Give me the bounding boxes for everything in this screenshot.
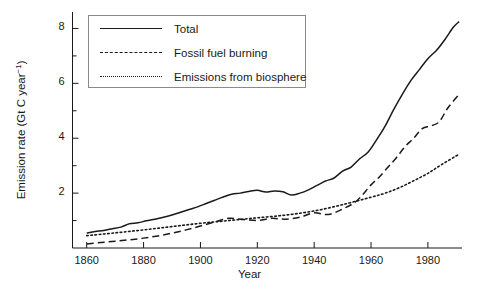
x-axis-tick-label: 1940 xyxy=(289,254,339,266)
x-axis-label: Year xyxy=(0,268,499,280)
y-axis-tick-label: 4 xyxy=(39,130,65,142)
legend-line-dashed-icon xyxy=(100,47,162,59)
y-axis-label-superscript: −1 xyxy=(13,64,22,73)
legend-label-fossil-fuel-burning: Fossil fuel burning xyxy=(174,47,267,59)
y-axis-label: Emission rate (Gt C year−1) xyxy=(0,0,40,260)
chart-legend: Total Fossil fuel burning Emissions from… xyxy=(88,15,306,88)
legend-label-emissions-from-biosphere: Emissions from biosphere xyxy=(174,71,306,83)
x-axis-tick-label: 1880 xyxy=(119,254,169,266)
legend-item-emissions-from-biosphere: Emissions from biosphere xyxy=(89,65,305,89)
legend-line-solid-icon xyxy=(100,23,162,35)
legend-line-dotted-icon xyxy=(100,71,162,83)
legend-item-fossil-fuel-burning: Fossil fuel burning xyxy=(89,41,305,65)
y-axis-tick-label: 2 xyxy=(39,185,65,197)
y-axis-tick-label: 8 xyxy=(39,20,65,32)
legend-label-total: Total xyxy=(174,23,198,35)
y-axis-tick-label: 6 xyxy=(39,75,65,87)
x-axis-tick-label: 1860 xyxy=(62,254,112,266)
series-line-emissions-from-biosphere xyxy=(87,154,459,236)
y-axis-label-close: ) xyxy=(15,61,27,65)
x-axis-tick-label: 1920 xyxy=(232,254,282,266)
x-axis-tick-label: 1960 xyxy=(346,254,396,266)
x-axis-tick-label: 1980 xyxy=(403,254,453,266)
x-axis-label-text: Year xyxy=(238,268,261,280)
x-axis-tick-label: 1900 xyxy=(175,254,225,266)
chart-figure: Emission rate (Gt C year−1) Year 2468186… xyxy=(0,0,499,292)
legend-item-total: Total xyxy=(89,17,305,41)
y-axis-label-text: Emission rate (Gt C year xyxy=(15,74,27,200)
